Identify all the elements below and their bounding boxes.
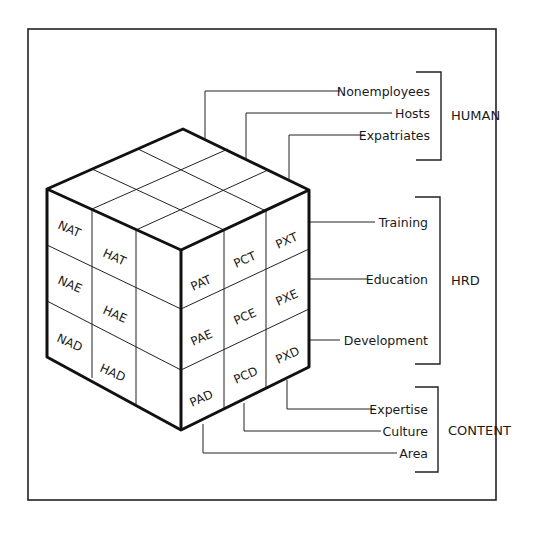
cell-pad: PAD — [188, 387, 216, 410]
label-education: Education — [366, 272, 428, 287]
cell-had: HAD — [98, 361, 128, 385]
cell-nad: NAD — [55, 331, 85, 355]
cell-pat: PAT — [189, 272, 215, 294]
cell-pct: PCT — [232, 248, 259, 270]
label-training: Training — [378, 215, 428, 230]
cell-pxd: PXD — [274, 344, 302, 367]
cell-hat: HAT — [101, 246, 129, 269]
group-hrd: HRD — [451, 273, 480, 288]
cell-pxt: PXT — [274, 229, 301, 251]
label-nonemployees: Nonemployees — [337, 84, 430, 99]
cell-nat: NAT — [56, 218, 84, 241]
label-expertise: Expertise — [369, 402, 428, 417]
group-content: CONTENT — [448, 423, 511, 438]
label-culture: Culture — [382, 424, 428, 439]
cell-pxe: PXE — [274, 287, 301, 309]
label-hosts: Hosts — [395, 106, 430, 121]
cell-pcd: PCD — [232, 364, 260, 387]
cell-pce: PCE — [232, 306, 259, 328]
cell-nae: NAE — [56, 273, 84, 296]
label-development: Development — [344, 333, 428, 348]
group-human: HUMAN — [451, 108, 500, 123]
cube-outline — [47, 129, 309, 430]
top-face-grid — [92, 149, 268, 230]
cell-pae: PAE — [189, 327, 215, 349]
cell-hae: HAE — [101, 303, 129, 326]
cube-diagram: Nonemployees Hosts Expatriates Training … — [0, 0, 546, 535]
label-area: Area — [399, 446, 428, 461]
label-expatriates: Expatriates — [359, 128, 430, 143]
